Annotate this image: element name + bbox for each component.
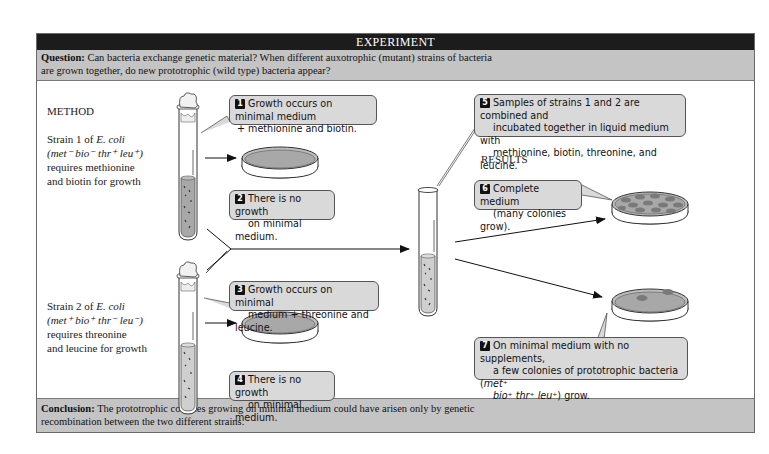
step-number-badge: 3	[235, 285, 245, 295]
step-5-line1: Samples of strains 1 and 2 are combined …	[480, 97, 640, 121]
step-number-badge: 7	[480, 341, 490, 351]
step-number-badge: 5	[480, 98, 490, 108]
step-7-genotype-a: met⁺	[484, 378, 508, 389]
method-heading: METHOD	[47, 105, 94, 117]
step-1-line1: Growth occurs on minimal medium	[235, 98, 332, 122]
experiment-diagram	[0, 0, 769, 454]
strain1-name: Strain 1 of	[47, 133, 96, 145]
petri-dish-strain1-icon	[242, 147, 318, 178]
strain2-genotype: (met⁺ bio⁺ thr⁻ leu⁻)	[47, 314, 143, 326]
petri-dish-complete-medium-icon	[612, 192, 688, 224]
callout-step-2: 2There is no growth on minimal medium.	[229, 190, 335, 220]
strain1-requirement: requires methionine	[47, 161, 135, 173]
strain2-species: E. coli	[96, 300, 125, 312]
strain2-description: Strain 2 of E. coli (met⁺ bio⁺ thr⁻ leu⁻…	[47, 299, 147, 355]
step-3-line1: Growth occurs on minimal	[235, 284, 332, 308]
step-number-badge: 6	[480, 184, 490, 194]
arrow-to-minimal-plate	[455, 259, 602, 297]
step-number-badge: 1	[235, 99, 245, 109]
step-1-line2: + methionine and biotin.	[235, 123, 357, 134]
step-7-genotype-b: bio⁺ thr⁺ leu⁺	[480, 390, 557, 401]
callout-step-1: 1Growth occurs on minimal medium + methi…	[229, 95, 377, 125]
petri-dish-minimal-medium-icon	[612, 289, 688, 321]
strain1-species: E. coli	[96, 133, 125, 145]
callout-step-7: 7On minimal medium with no supplements, …	[474, 337, 688, 380]
test-tube-strain2-icon	[177, 262, 199, 414]
step-7-line1: On minimal medium with no supplements,	[480, 340, 629, 364]
test-tube-strain1-icon	[177, 93, 199, 240]
merge-lines	[207, 229, 231, 270]
strain2-requirement: requires threonine	[47, 328, 127, 340]
callout-step-6: 6Complete medium (many colonies grow).	[474, 180, 582, 210]
callout-step-3: 3Growth occurs on minimal medium + threo…	[229, 281, 379, 311]
strain1-description: Strain 1 of E. coli (met⁻ bio⁻ thr⁺ leu⁺…	[47, 132, 143, 188]
strain1-requirement-2: and biotin for growth	[47, 175, 141, 187]
test-tube-mixed-icon	[418, 188, 438, 317]
arrow-to-complete-plate	[455, 219, 605, 242]
step-7-line3: ) grow.	[557, 390, 590, 401]
callout-step-4: 4There is no growth on minimal medium.	[229, 371, 335, 401]
strain2-name: Strain 2 of	[47, 300, 96, 312]
step-number-badge: 2	[235, 194, 245, 204]
strain1-genotype: (met⁻ bio⁻ thr⁺ leu⁺)	[47, 147, 143, 159]
step-number-badge: 4	[235, 375, 245, 385]
callout-step-5: 5Samples of strains 1 and 2 are combined…	[474, 94, 686, 137]
strain2-requirement-2: and leucine for growth	[47, 342, 147, 354]
